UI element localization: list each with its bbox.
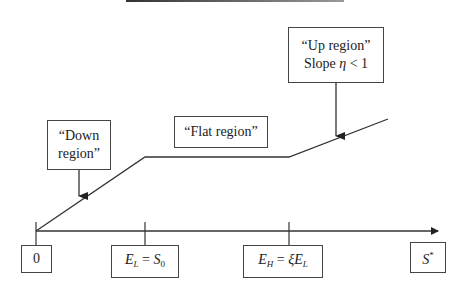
up-region-slope: Slope η < 1 <box>304 55 368 73</box>
flat-region-label: “Flat region” <box>184 123 257 141</box>
down-region-line2: region” <box>58 145 100 163</box>
label-s-star: S* <box>410 242 446 273</box>
label-origin: 0 <box>21 245 52 273</box>
callout-down-region: “Down region” <box>47 120 111 170</box>
label-eh-equals-xi-el: EH = ξEL <box>243 245 323 278</box>
label-el-equals-s0: EL = S0 <box>111 245 179 278</box>
callout-up-region: “Up region” Slope η < 1 <box>288 27 384 83</box>
down-region-line1: “Down <box>59 127 99 145</box>
up-region-title: “Up region” <box>302 37 371 55</box>
callout-flat-region: “Flat region” <box>174 116 268 148</box>
